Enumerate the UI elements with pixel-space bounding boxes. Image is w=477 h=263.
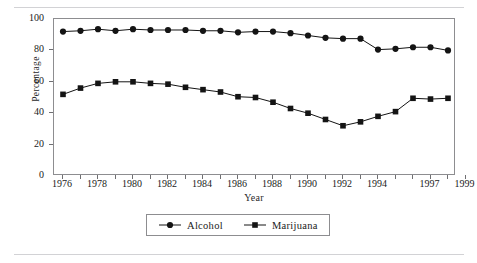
square-marker-icon xyxy=(235,94,241,100)
x-tick-label: 1984 xyxy=(182,178,222,189)
circle-marker-icon xyxy=(200,28,206,34)
square-marker-icon xyxy=(95,81,101,87)
circle-marker-icon xyxy=(375,47,381,53)
square-marker-icon xyxy=(130,79,136,85)
square-marker-icon xyxy=(288,106,294,112)
square-marker-icon xyxy=(340,123,346,129)
circle-marker-icon xyxy=(357,36,363,42)
x-axis-tick-labels: 1976197819801982198419861988199019921994… xyxy=(53,178,455,192)
circle-marker-icon xyxy=(147,27,153,33)
circle-marker-icon xyxy=(305,32,311,38)
x-tick-label: 1994 xyxy=(357,178,397,189)
circle-marker-icon xyxy=(235,29,241,35)
square-marker-icon xyxy=(323,117,329,123)
legend-entry-marijuana[interactable]: Marijuana xyxy=(243,220,318,231)
x-tick-label: 1978 xyxy=(77,178,117,189)
circle-marker-icon xyxy=(217,28,223,34)
circle-marker-icon xyxy=(340,36,346,42)
square-marker-icon xyxy=(183,85,189,91)
circle-marker-icon xyxy=(287,30,293,36)
circle-marker-icon xyxy=(165,27,171,33)
figure-bottom-rule xyxy=(14,254,464,255)
square-marker-icon xyxy=(253,95,259,101)
circle-marker-icon xyxy=(322,35,328,41)
series-line xyxy=(63,82,448,126)
x-tick-label: 1980 xyxy=(112,178,152,189)
x-tick-label: 1986 xyxy=(217,178,257,189)
circle-marker-icon xyxy=(270,28,276,34)
legend-label: Marijuana xyxy=(272,220,318,231)
figure-top-rule xyxy=(14,7,464,8)
square-marker-icon xyxy=(445,95,451,101)
square-marker-icon xyxy=(358,119,364,125)
x-axis-title: Year xyxy=(53,192,455,203)
legend-entry-alcohol[interactable]: Alcohol xyxy=(158,220,223,231)
circle-marker-icon xyxy=(182,27,188,33)
x-tick-label: 1982 xyxy=(147,178,187,189)
square-marker-icon xyxy=(270,99,276,105)
series-marijuana xyxy=(60,79,451,129)
circle-marker-icon xyxy=(95,26,101,32)
circle-marker-icon xyxy=(252,28,258,34)
circle-marker-icon xyxy=(427,44,433,50)
y-axis: Percentage 020406080100 xyxy=(13,18,49,175)
circle-marker-icon xyxy=(77,28,83,34)
circle-marker-icon xyxy=(112,28,118,34)
square-marker-icon xyxy=(218,89,224,95)
plot-svg xyxy=(54,19,456,176)
y-tick-label: 60 xyxy=(14,76,44,86)
y-tick-label: 0 xyxy=(14,170,44,180)
x-tick-label: 1990 xyxy=(287,178,327,189)
circle-marker-icon xyxy=(60,28,66,34)
square-marker-icon xyxy=(165,81,171,87)
square-marker-icon xyxy=(393,109,399,115)
chart-legend: AlcoholMarijuana xyxy=(146,214,330,236)
circle-marker-icon xyxy=(130,26,136,32)
x-tick-label: 1992 xyxy=(322,178,362,189)
series-alcohol xyxy=(60,26,451,53)
square-marker-icon xyxy=(428,96,434,102)
square-marker-icon xyxy=(243,220,267,230)
circle-marker-icon xyxy=(445,47,451,53)
plot-area xyxy=(53,18,455,175)
x-tick-label: 1976 xyxy=(42,178,82,189)
square-marker-icon xyxy=(410,95,416,101)
y-tick-label: 100 xyxy=(14,13,44,23)
square-marker-icon xyxy=(148,81,154,87)
circle-marker-icon xyxy=(392,46,398,52)
x-tick-label: 1999 xyxy=(445,178,477,189)
square-marker-icon xyxy=(78,85,84,91)
figure-container: Percentage 020406080100 1976197819801982… xyxy=(0,0,477,263)
square-marker-icon xyxy=(113,79,119,85)
y-tick-label: 40 xyxy=(14,107,44,117)
square-marker-icon xyxy=(375,114,381,120)
x-tick-label: 1997 xyxy=(410,178,450,189)
y-tick-label: 20 xyxy=(14,139,44,149)
square-marker-icon xyxy=(200,87,206,93)
square-marker-icon xyxy=(60,92,66,98)
x-tick-label: 1988 xyxy=(252,178,292,189)
circle-marker-icon xyxy=(158,220,182,230)
circle-marker-icon xyxy=(410,44,416,50)
square-marker-icon xyxy=(305,110,311,116)
legend-label: Alcohol xyxy=(187,220,223,231)
y-tick-label: 80 xyxy=(14,44,44,54)
